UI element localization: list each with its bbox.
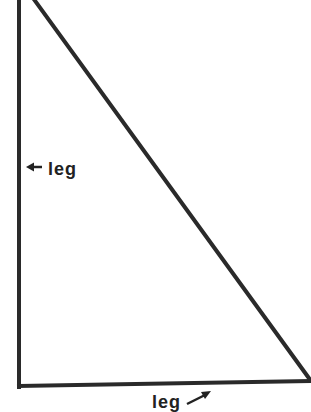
up-right-arrow-icon bbox=[187, 391, 211, 404]
bottom-leg-label: leg bbox=[152, 393, 181, 411]
left-leg-label: leg bbox=[48, 160, 77, 178]
horizontal-leg bbox=[19, 381, 311, 386]
left-arrow-icon bbox=[26, 163, 42, 172]
hypotenuse bbox=[33, 0, 311, 381]
right-triangle-diagram bbox=[0, 0, 311, 412]
